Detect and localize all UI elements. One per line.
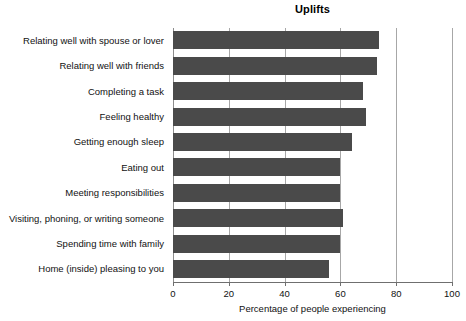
x-tick-label-40: 40: [265, 288, 305, 299]
x-tick-0: [173, 282, 174, 286]
bar[interactable]: [173, 209, 343, 227]
uplifts-bar-chart: Uplifts Relating well with spouse or lov…: [0, 0, 466, 321]
x-tick-label-0: 0: [153, 288, 193, 299]
x-axis-line: [173, 282, 453, 283]
x-tick-label-80: 80: [376, 288, 416, 299]
bar-row[interactable]: [173, 180, 452, 205]
x-tick-40: [285, 282, 286, 286]
category-label: Visiting, phoning, or writing someone: [0, 213, 164, 224]
bar-row[interactable]: [173, 231, 452, 256]
x-tick-label-60: 60: [320, 288, 360, 299]
bar-row[interactable]: [173, 257, 452, 282]
x-tick-label-20: 20: [209, 288, 249, 299]
bar-row[interactable]: [173, 53, 452, 78]
category-label: Relating well with friends: [0, 60, 164, 71]
bar[interactable]: [173, 260, 329, 278]
bar[interactable]: [173, 31, 379, 49]
category-label: Spending time with family: [0, 238, 164, 249]
category-label: Getting enough sleep: [0, 136, 164, 147]
category-label: Home (inside) pleasing to you: [0, 263, 164, 274]
category-label: Eating out: [0, 162, 164, 173]
bar[interactable]: [173, 108, 366, 126]
bar[interactable]: [173, 184, 340, 202]
bar-row[interactable]: [173, 130, 452, 155]
chart-title: Uplifts: [173, 3, 452, 15]
x-tick-label-100: 100: [432, 288, 466, 299]
bar[interactable]: [173, 235, 340, 253]
category-label: Relating well with spouse or lover: [0, 35, 164, 46]
plot-area: [173, 28, 452, 282]
bar[interactable]: [173, 57, 377, 75]
x-tick-20: [229, 282, 230, 286]
category-label: Completing a task: [0, 86, 164, 97]
category-label: Feeling healthy: [0, 111, 164, 122]
x-tick-100: [452, 282, 453, 286]
category-label: Meeting responsibilities: [0, 187, 164, 198]
x-tick-60: [340, 282, 341, 286]
bar-row[interactable]: [173, 206, 452, 231]
bar-row[interactable]: [173, 28, 452, 53]
x-tick-80: [396, 282, 397, 286]
bar-row[interactable]: [173, 155, 452, 180]
x-axis-title: Percentage of people experiencing: [173, 303, 452, 314]
bar[interactable]: [173, 82, 363, 100]
bar-row[interactable]: [173, 104, 452, 129]
category-axis-labels: Relating well with spouse or loverRelati…: [0, 28, 169, 282]
gridline-100: [452, 28, 453, 282]
bar-row[interactable]: [173, 79, 452, 104]
bar[interactable]: [173, 133, 352, 151]
bar[interactable]: [173, 158, 340, 176]
